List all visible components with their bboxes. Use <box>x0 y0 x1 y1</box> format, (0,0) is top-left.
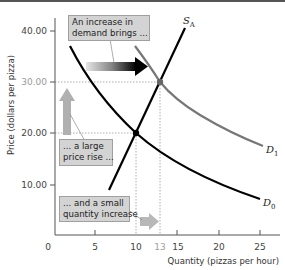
x-axis-title: Quantity (pizzas per hour) <box>168 256 279 266</box>
quantity-increase-callout: ... and a small quantity increase <box>59 196 130 222</box>
new-equilibrium-point <box>157 79 163 85</box>
callout-line: price rise ... <box>63 152 109 163</box>
d1-label: D1 <box>265 144 279 158</box>
demand-increase-callout: An increase in demand brings ... <box>68 15 150 41</box>
y-tick-10: 10.00 <box>21 180 47 190</box>
y-tick-labels: 40.00 30.00 20.00 10.00 <box>21 26 47 190</box>
callout-line: demand brings ... <box>72 28 146 39</box>
callout-line: ... and a small <box>63 198 126 209</box>
x-tick-5: 5 <box>92 242 98 252</box>
x-tick-20: 20 <box>213 242 225 252</box>
y-tick-40: 40.00 <box>21 26 47 36</box>
price-rise-callout: ... a large price rise ... <box>59 139 113 166</box>
supply-label: SA <box>183 15 196 29</box>
callout-line: quantity increase <box>63 209 126 220</box>
x-tick-labels: 0 5 10 13 15 20 25 <box>45 242 266 252</box>
initial-equilibrium-point <box>133 130 139 136</box>
x-tick-0: 0 <box>45 242 51 252</box>
supply-curve-sa <box>109 28 185 190</box>
x-tick-10: 10 <box>130 242 142 252</box>
d0-label: D0 <box>262 197 276 211</box>
x-tick-15: 15 <box>172 242 183 252</box>
y-axis-title: Price (dollars per pizza) <box>6 55 16 155</box>
callout-line: An increase in <box>72 17 146 28</box>
x-tick-13: 13 <box>154 242 165 252</box>
callout-line: ... a large <box>63 141 109 152</box>
y-tick-20: 20.00 <box>21 128 47 138</box>
y-tick-30: 30.00 <box>21 77 47 87</box>
quantity-increase-arrow <box>140 213 159 230</box>
price-rise-arrow <box>59 88 75 135</box>
x-tick-25: 25 <box>254 242 265 252</box>
demand-increase-arrow <box>86 57 148 76</box>
